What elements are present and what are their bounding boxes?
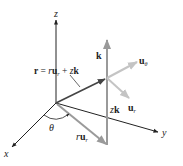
position-vector-label: r = rur + zk bbox=[34, 66, 79, 77]
k-unit-label: k bbox=[96, 50, 102, 61]
r-ur-label: rur bbox=[76, 131, 88, 143]
u-theta-label: uθ bbox=[139, 55, 148, 67]
x-axis-label: x bbox=[3, 148, 9, 159]
cylindrical-coordinates-diagram: z x y k r = rur + zk uθ ur zk rur θ bbox=[0, 0, 183, 166]
label-leader-line bbox=[70, 75, 80, 87]
position-vector-r bbox=[56, 79, 105, 103]
y-axis-label: y bbox=[161, 127, 167, 138]
z-axis-label: z bbox=[53, 8, 58, 19]
theta-label: θ bbox=[49, 122, 54, 133]
u-r-vector bbox=[107, 78, 129, 98]
z-k-label: zk bbox=[109, 104, 120, 115]
u-theta-vector bbox=[107, 62, 137, 78]
u-r-label: ur bbox=[128, 102, 137, 114]
theta-arc bbox=[44, 114, 69, 119]
